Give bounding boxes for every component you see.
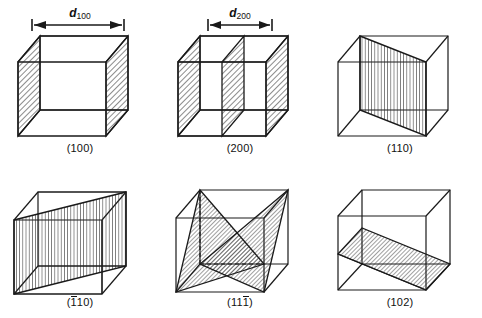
plane-label-200: (200) <box>160 142 320 154</box>
unit-cell-bar110-drawing <box>0 182 160 302</box>
unit-cell-100-drawing <box>0 28 160 148</box>
unit-cell-102: (102) <box>320 182 480 318</box>
unit-cell-200-drawing <box>160 28 320 148</box>
plane-bar110-diagonal <box>14 192 126 294</box>
unit-cell-11bar1-drawing <box>160 182 322 302</box>
unit-cell-200: (200) <box>160 28 320 187</box>
plane-label-11bar1: (111) <box>160 296 320 308</box>
unit-cell-100: (100) <box>0 28 160 187</box>
plane-200-left <box>178 36 200 136</box>
unit-cell-bar110: (110) <box>0 182 160 318</box>
plane-100-left <box>18 36 40 136</box>
plane-100-right <box>106 36 128 136</box>
plane-110-diagonal <box>360 36 426 136</box>
plane-200-right <box>266 36 288 136</box>
unit-cell-11bar1: (111) <box>160 182 320 318</box>
plane-label-102: (102) <box>320 296 480 308</box>
miller-index-figure: d100 d200 <box>0 0 482 318</box>
unit-cell-102-drawing <box>320 182 482 302</box>
overbar-digit: 1 <box>243 296 249 308</box>
unit-cell-110: (110) <box>320 28 480 187</box>
plane-label-110: (110) <box>320 142 480 154</box>
plane-102-inclined <box>338 228 450 290</box>
overbar-digit: 1 <box>71 296 77 308</box>
plane-label-bar110: (110) <box>0 296 160 308</box>
plane-label-100: (100) <box>0 142 160 154</box>
plane-200-middle <box>222 36 244 136</box>
unit-cell-110-drawing <box>320 28 482 148</box>
